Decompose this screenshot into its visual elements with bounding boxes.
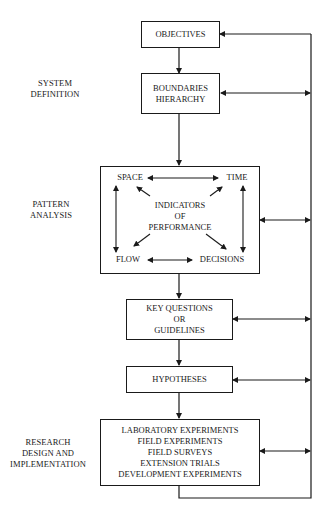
box-text: EXTENSION TRIALS <box>140 458 219 469</box>
box-text: OR <box>174 314 186 325</box>
box-text: FIELD SURVEYS <box>148 447 212 458</box>
hypotheses-box: HYPOTHESES <box>126 366 233 393</box>
box-text: HYPOTHESES <box>152 374 206 385</box>
box-text: GUIDELINES <box>154 325 205 336</box>
box-text: FIELD EXPERIMENTS <box>138 436 223 447</box>
box-text: DEVELOPMENT EXPERIMENTS <box>118 469 241 480</box>
box-text: LABORATORY EXPERIMENTS <box>122 425 239 436</box>
key-questions-box: KEY QUESTIONS OR GUIDELINES <box>126 299 233 340</box>
box-text: KEY QUESTIONS <box>146 303 213 314</box>
research-methods-box: LABORATORY EXPERIMENTS FIELD EXPERIMENTS… <box>100 419 260 486</box>
